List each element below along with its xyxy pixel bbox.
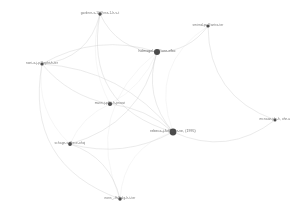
graph-node[interactable] bbox=[170, 129, 177, 136]
edge-layer bbox=[39, 14, 275, 199]
graph-node[interactable] bbox=[154, 49, 160, 55]
graph-node[interactable] bbox=[274, 119, 277, 122]
graph-edge bbox=[173, 120, 275, 142]
graph-edge bbox=[208, 26, 275, 120]
graph-edge bbox=[70, 104, 110, 144]
graph-edge bbox=[120, 132, 173, 199]
graph-edge bbox=[42, 64, 173, 132]
graph-node[interactable] bbox=[98, 12, 101, 15]
graph-edge bbox=[70, 132, 173, 149]
node-layer bbox=[40, 12, 276, 200]
network-graph-view: gardner-s-10@ess-1-h-v-tsmirnd-pu@antro-… bbox=[0, 0, 299, 215]
graph-edge bbox=[108, 52, 157, 199]
graph-edge bbox=[70, 144, 120, 199]
graph-canvas bbox=[0, 0, 299, 215]
graph-edge bbox=[42, 64, 110, 104]
graph-edge bbox=[70, 52, 157, 144]
graph-node[interactable] bbox=[206, 24, 209, 27]
graph-edge bbox=[100, 14, 157, 52]
graph-edge bbox=[110, 104, 173, 132]
graph-edge bbox=[110, 52, 157, 104]
graph-edge bbox=[166, 26, 208, 132]
graph-node[interactable] bbox=[118, 197, 121, 200]
graph-edge bbox=[42, 14, 100, 64]
graph-node[interactable] bbox=[68, 142, 72, 146]
graph-edge bbox=[39, 64, 120, 199]
graph-node[interactable] bbox=[40, 62, 43, 65]
graph-node[interactable] bbox=[108, 102, 112, 106]
graph-edge bbox=[42, 45, 157, 64]
